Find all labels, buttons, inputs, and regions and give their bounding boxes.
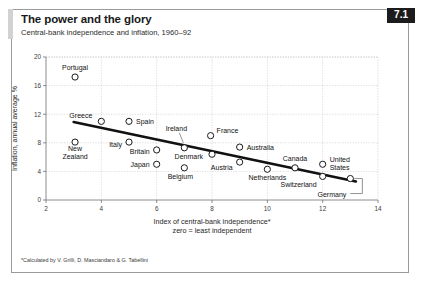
data-point-marker (181, 165, 187, 171)
x-axis-subtitle: zero = least independent (173, 226, 252, 235)
data-point-label: Netherlands (248, 174, 286, 181)
x-axis-tick-label: 4 (100, 205, 104, 212)
data-point-marker (181, 145, 187, 151)
data-point-label: United (330, 156, 350, 163)
data-point-marker (154, 161, 160, 167)
data-point-label: States (330, 164, 350, 171)
footnote: *Calculated by V. Grilli, D. Masciandaro… (21, 257, 148, 263)
label-leader-line (179, 133, 183, 143)
y-axis-tick-label: 12 (34, 111, 42, 118)
data-point-marker (264, 166, 270, 172)
data-point-label: New (68, 145, 83, 152)
data-point-label: Canada (283, 155, 308, 162)
data-point-label: Austria (211, 164, 233, 171)
data-point-marker (208, 133, 214, 139)
data-point-label: Belgium (168, 173, 193, 181)
x-axis-title: Index of central-bank independence* (153, 217, 270, 226)
data-point-marker (154, 147, 160, 153)
x-axis-tick-label: 12 (319, 205, 327, 212)
data-point-marker (320, 161, 326, 167)
x-axis-tick-label: 14 (374, 205, 382, 212)
x-axis-tick-label: 6 (155, 205, 159, 212)
y-axis-tick-label: 0 (37, 196, 41, 203)
data-point-label: Greece (69, 112, 92, 119)
data-point-marker (126, 139, 132, 145)
trend-line (74, 122, 356, 181)
data-point-marker (98, 118, 104, 124)
data-point-label: Denmark (175, 153, 204, 160)
data-point-label: Ireland (166, 125, 188, 132)
data-point-label: Switzerland (280, 181, 316, 188)
data-point-label: Zealand (62, 153, 87, 160)
data-point-marker (347, 175, 353, 181)
data-point-label: Australia (247, 144, 274, 151)
data-point-marker (237, 144, 243, 150)
y-axis-tick-label: 4 (37, 168, 41, 175)
data-point-label: Spain (136, 118, 154, 126)
data-point-marker (320, 173, 326, 179)
data-point-marker (237, 159, 243, 165)
x-axis-tick-label: 8 (210, 205, 214, 212)
data-point-label: Germany (318, 191, 347, 199)
data-point-label: Britain (130, 148, 150, 155)
scatter-plot: 0481216202468101214Inflation, annual ave… (0, 0, 398, 264)
data-point-label: Portugal (62, 64, 89, 72)
x-axis-tick-label: 2 (44, 205, 48, 212)
y-axis-tick-label: 8 (37, 139, 41, 146)
data-point-marker (292, 165, 298, 171)
data-point-marker (72, 74, 78, 80)
y-axis-tick-label: 16 (34, 82, 42, 89)
y-axis-title: Inflation, annual average % (11, 86, 19, 171)
data-point-label: Italy (109, 141, 122, 149)
data-point-marker (126, 118, 132, 124)
data-point-label: Japan (131, 161, 150, 169)
data-point-label: France (217, 127, 239, 134)
data-point-marker (209, 151, 215, 157)
x-axis-tick-label: 10 (264, 205, 272, 212)
chart-svg: 0481216202468101214Inflation, annual ave… (0, 0, 398, 264)
y-axis-tick-label: 20 (34, 53, 42, 60)
